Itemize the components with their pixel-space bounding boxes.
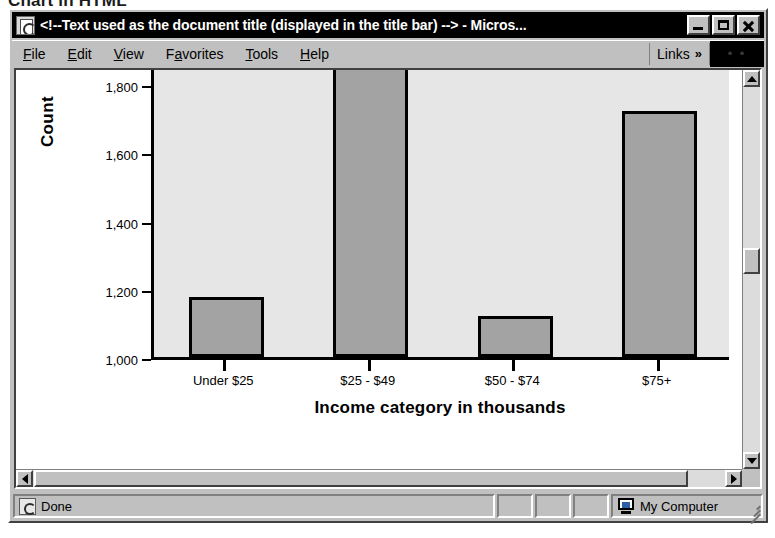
horizontal-scrollbar[interactable] <box>16 469 742 487</box>
y-axis-tick-mark <box>142 154 151 156</box>
status-pane-3 <box>573 494 609 518</box>
plot-area <box>151 70 729 360</box>
vertical-scrollbar[interactable] <box>742 70 760 469</box>
menu-item-view[interactable]: View <box>111 44 147 64</box>
maximize-button[interactable] <box>712 15 735 35</box>
x-axis-tick-label: $25 - $49 <box>340 373 395 388</box>
x-axis-title: Income category in thousands <box>151 398 729 418</box>
menu-item-tools[interactable]: Tools <box>242 44 281 64</box>
x-axis-tick-label: $50 - $74 <box>485 373 540 388</box>
bar <box>189 297 264 357</box>
scroll-left-button[interactable] <box>16 470 33 487</box>
menu-item-help-rest: elp <box>310 46 329 62</box>
ie-logo-animation[interactable]: • • <box>710 41 764 67</box>
menu-item-edit[interactable]: Edit <box>65 44 95 64</box>
close-button[interactable] <box>737 15 760 35</box>
scroll-down-button[interactable] <box>743 452 760 469</box>
status-pane-2 <box>535 494 571 518</box>
bar <box>333 70 408 357</box>
y-axis-title: Count <box>38 96 58 147</box>
menu-item-favorites-rest: vorites <box>182 46 223 62</box>
status-bar: Done My Computer <box>12 493 764 519</box>
status-pane-1 <box>497 494 533 518</box>
arrow-left-icon <box>22 474 28 484</box>
screenshot-root: Chart in HTML <!--Text used as the docum… <box>0 0 775 538</box>
title-bar: <!--Text used as the document title (dis… <box>12 12 764 38</box>
arrow-down-icon <box>747 458 757 464</box>
menu-item-file-rest: ile <box>32 46 46 62</box>
horizontal-scroll-thumb[interactable] <box>34 470 688 487</box>
x-axis-tick-mark <box>512 360 515 371</box>
chevron-double-right-icon: » <box>695 46 702 61</box>
y-axis-tick-label: 1,000 <box>105 353 138 368</box>
bar <box>622 111 697 357</box>
document-area: Count 1,0001,2001,4001,6001,800 Under $2… <box>16 70 742 469</box>
bar-chart: Count 1,0001,2001,4001,6001,800 Under $2… <box>16 70 742 469</box>
y-axis-tick-mark <box>142 223 151 225</box>
scrollbar-corner <box>742 469 760 487</box>
y-axis-tick-label: 1,400 <box>105 216 138 231</box>
browser-window: <!--Text used as the document title (dis… <box>8 8 768 523</box>
menu-item-view-rest: iew <box>123 46 144 62</box>
menu-items: File Edit View Favorites Tools Help <box>12 44 649 64</box>
x-axis-tick-mark <box>223 360 226 371</box>
vertical-scroll-thumb[interactable] <box>743 248 760 274</box>
arrow-up-icon <box>747 76 757 82</box>
menu-item-file[interactable]: File <box>20 44 49 64</box>
y-axis-tick-mark <box>142 86 151 88</box>
x-axis-tick-label: $75+ <box>642 373 671 388</box>
y-axis-tick-labels: 1,0001,2001,4001,6001,800 <box>66 70 142 469</box>
scroll-right-button[interactable] <box>725 470 742 487</box>
menu-item-edit-rest: dit <box>77 46 92 62</box>
y-axis-tick-label: 1,200 <box>105 284 138 299</box>
minimize-icon <box>693 27 703 30</box>
menu-bar: File Edit View Favorites Tools Help Link… <box>12 40 764 66</box>
status-message: Done <box>41 499 72 514</box>
menu-item-favorites[interactable]: Favorites <box>163 44 227 64</box>
ie-logo-dots: • • <box>728 46 747 61</box>
x-axis-tick-mark <box>657 360 660 371</box>
menu-bar-right: Links » • • <box>649 41 764 66</box>
document-icon <box>19 498 36 515</box>
y-axis-tick-mark <box>142 291 151 293</box>
ie-document-icon <box>16 16 35 35</box>
minimize-button[interactable] <box>687 15 710 35</box>
links-button[interactable]: Links » <box>649 43 710 65</box>
links-label: Links <box>657 46 690 62</box>
status-message-pane: Done <box>13 494 495 518</box>
security-zone-pane[interactable]: My Computer <box>611 494 763 518</box>
menu-item-tools-rest: ools <box>252 46 278 62</box>
maximize-icon <box>718 20 729 30</box>
scroll-up-button[interactable] <box>743 70 760 87</box>
window-controls <box>687 15 762 35</box>
x-axis-tick-label: Under $25 <box>193 373 254 388</box>
window-title: <!--Text used as the document title (dis… <box>40 17 687 33</box>
y-axis-tick-mark <box>142 359 151 361</box>
x-axis-tick-mark <box>368 360 371 371</box>
y-axis-tick-label: 1,600 <box>105 148 138 163</box>
security-zone-label: My Computer <box>640 499 718 514</box>
bar <box>478 316 553 357</box>
resize-grip-icon[interactable] <box>747 502 761 516</box>
menu-item-help[interactable]: Help <box>297 44 332 64</box>
y-axis-tick-label: 1,800 <box>105 80 138 95</box>
monitor-icon <box>617 498 635 514</box>
browser-client-area: Count 1,0001,2001,4001,6001,800 Under $2… <box>14 68 762 489</box>
arrow-right-icon <box>731 474 737 484</box>
